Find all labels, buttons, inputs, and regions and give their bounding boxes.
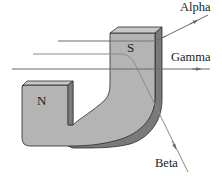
alpha-arrow-icon — [190, 21, 196, 24]
beta-label: Beta — [155, 156, 178, 170]
alpha-label: Alpha — [180, 0, 211, 14]
magnetic-deflection-diagram: S N Alpha Gamma Beta — [0, 0, 222, 177]
south-pole-label: S — [127, 40, 134, 55]
n-pole-top-face — [22, 81, 73, 86]
s-pole-top-face — [110, 27, 162, 33]
n-pole-side-face — [68, 81, 73, 125]
horseshoe-magnet: S N — [22, 27, 162, 148]
north-pole-label: N — [37, 93, 47, 108]
magnet-front-face — [22, 33, 155, 146]
gamma-label: Gamma — [171, 50, 211, 64]
